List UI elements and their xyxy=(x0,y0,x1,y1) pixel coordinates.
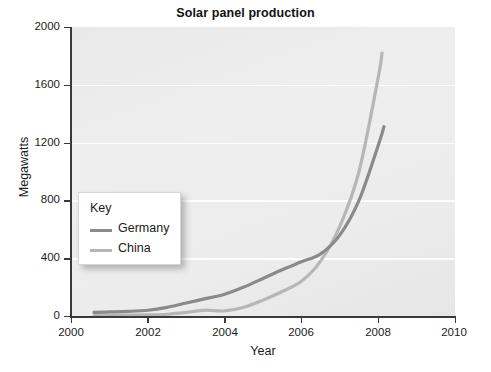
x-tick-mark-2010 xyxy=(455,316,456,323)
x-axis-label: Year xyxy=(71,344,455,358)
y-axis-label: Megawatts xyxy=(17,112,31,222)
y-tick-label-1600: 1600 xyxy=(34,78,60,90)
x-tick-mark-2004 xyxy=(224,316,225,323)
gridline-1200 xyxy=(71,143,455,145)
x-tick-label-2010: 2010 xyxy=(441,326,467,338)
x-tick-label-2006: 2006 xyxy=(288,326,314,338)
chart-figure: Solar panel production 2000 1600 1200 80… xyxy=(0,0,491,372)
chart-legend: Key Germany China xyxy=(78,192,181,265)
x-tick-label-2008: 2008 xyxy=(365,326,391,338)
x-axis-line xyxy=(70,316,456,318)
y-tick-label-2000: 2000 xyxy=(34,20,60,32)
legend-title: Key xyxy=(90,201,112,215)
y-tick-mark-400 xyxy=(64,258,71,259)
y-tick-mark-800 xyxy=(64,200,71,201)
chart-title: Solar panel production xyxy=(0,6,491,20)
x-tick-label-2004: 2004 xyxy=(212,326,238,338)
y-tick-mark-1600 xyxy=(64,85,71,86)
y-axis-line xyxy=(70,27,72,317)
y-tick-label-1200: 1200 xyxy=(34,136,60,148)
legend-label-china: China xyxy=(118,241,151,255)
y-tick-mark-2000 xyxy=(64,27,71,28)
y-tick-label-0: 0 xyxy=(54,309,60,321)
x-tick-mark-2008 xyxy=(378,316,379,323)
x-tick-mark-2006 xyxy=(301,316,302,323)
x-tick-mark-2000 xyxy=(71,316,72,323)
x-tick-label-2000: 2000 xyxy=(58,326,84,338)
x-tick-mark-2002 xyxy=(147,316,148,323)
legend-swatch-germany xyxy=(90,229,112,232)
plot-area xyxy=(71,27,455,316)
legend-label-germany: Germany xyxy=(118,221,169,235)
y-tick-label-800: 800 xyxy=(41,193,60,205)
y-tick-mark-1200 xyxy=(64,143,71,144)
y-tick-label-400: 400 xyxy=(41,251,60,263)
gridline-1600 xyxy=(71,85,455,87)
x-tick-label-2002: 2002 xyxy=(135,326,161,338)
legend-swatch-china xyxy=(90,249,112,252)
